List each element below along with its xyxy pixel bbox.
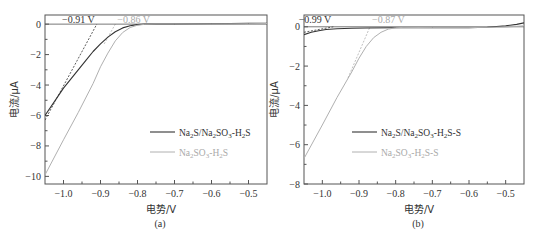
onset-annotation-1: −0.99 V (299, 14, 332, 25)
y-tick-label: −2 (289, 61, 300, 72)
onset-annotation-1: −0.91 V (62, 14, 95, 25)
series-line-1 (304, 23, 524, 35)
y-tick-label: −4 (30, 80, 41, 91)
y-tick-label: −8 (289, 179, 300, 190)
plot-frame (304, 15, 524, 184)
x-tick-label: −0.5 (497, 188, 515, 199)
y-tick-label: −6 (289, 139, 300, 150)
panel-label: (a) (154, 218, 165, 230)
legend: Na2S/Na2SO3-H2SNa2SO3-H2S (150, 128, 251, 160)
onset-annotation-2: −0.86 V (117, 14, 150, 25)
y-tick-label: −4 (289, 100, 300, 111)
x-tick-label: −0.9 (350, 188, 368, 199)
legend: Na2S/Na2SO3-H2S-SNa2SO3-H2S-S (352, 128, 461, 160)
figure: −1.0−0.9−0.8−0.7−0.6−0.50−2−4−6−8−10−0.9… (0, 0, 538, 243)
legend-entry-2: Na2SO3-H2S-S (381, 148, 439, 160)
tangent-line (348, 27, 370, 78)
y-tick-label: −6 (30, 110, 41, 121)
series-line-1 (45, 23, 267, 115)
y-tick-label: −8 (30, 140, 41, 151)
x-tick-label: −0.9 (91, 188, 109, 199)
y-axis-title: 电流/μA (8, 81, 20, 118)
x-axis-title: 电势/V (146, 203, 176, 215)
x-tick-label: −0.8 (387, 188, 405, 199)
x-tick-label: −0.7 (423, 188, 441, 199)
x-tick-label: −0.6 (460, 188, 478, 199)
y-tick-label: −10 (25, 171, 41, 182)
y-axis-title: 电流/μA (268, 81, 280, 118)
x-tick-label: −0.7 (165, 188, 183, 199)
y-tick-label: 0 (36, 19, 41, 30)
x-tick-label: −1.0 (54, 188, 72, 199)
legend-entry-2: Na2SO3-H2S (179, 148, 228, 160)
y-tick-label: −2 (30, 49, 41, 60)
tangent-line (45, 24, 97, 120)
x-tick-label: −1.0 (313, 188, 331, 199)
legend-entry-1: Na2S/Na2SO3-H2S-S (381, 128, 461, 140)
onset-annotation-2: −0.87 V (372, 14, 405, 25)
chart-panel-b: −1.0−0.9−0.8−0.7−0.6−0.50−2−4−6−8−0.99 V… (268, 14, 524, 230)
x-tick-label: −0.6 (202, 188, 220, 199)
tangent-line (104, 24, 115, 44)
chart-panel-a: −1.0−0.9−0.8−0.7−0.6−0.50−2−4−6−8−10−0.9… (8, 14, 267, 230)
x-tick-label: −0.8 (128, 188, 146, 199)
panel-label: (b) (412, 218, 424, 230)
legend-entry-1: Na2S/Na2SO3-H2S (179, 128, 251, 140)
x-axis-title: 电势/V (404, 203, 434, 215)
x-tick-label: −0.5 (239, 188, 257, 199)
plot-frame (45, 15, 267, 184)
